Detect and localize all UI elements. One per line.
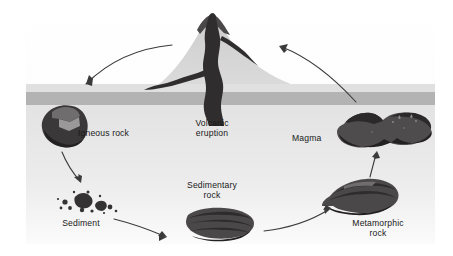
label-metamorphic-rock: Metamorphic rock xyxy=(338,218,418,239)
sediment-dot-1 xyxy=(62,199,67,204)
sediment-dot-6 xyxy=(108,205,113,210)
rock-cycle-diagram: Igneous rock Volcanic eruption Magma Sed… xyxy=(0,0,453,256)
sediment-dot-3 xyxy=(60,207,63,210)
label-igneous-rock: Igneous rock xyxy=(78,128,156,138)
sediment-dot-11 xyxy=(103,212,105,214)
label-volcanic-eruption: Volcanic eruption xyxy=(178,118,246,139)
label-sedimentary-rock: Sedimentary rock xyxy=(172,180,252,201)
sediment-dot-2 xyxy=(68,206,72,210)
magma-speck-5 xyxy=(403,127,405,129)
sediment-dot-8 xyxy=(87,191,90,194)
sediment-dot-7 xyxy=(115,210,118,213)
sediment-dot-5 xyxy=(90,209,93,212)
label-magma: Magma xyxy=(292,133,338,143)
magma-speck-6 xyxy=(371,131,373,133)
sediment-dot-4 xyxy=(80,208,84,212)
sediment-dot-9 xyxy=(73,191,75,193)
label-sediment: Sediment xyxy=(48,218,114,228)
magma-speck-3 xyxy=(392,121,394,123)
ground-strata-band xyxy=(26,92,435,105)
sediment-dot-12 xyxy=(57,198,59,200)
sediment-dot-10 xyxy=(99,195,101,197)
ground-upper-band xyxy=(26,84,435,92)
magma-speck-4 xyxy=(415,120,417,122)
